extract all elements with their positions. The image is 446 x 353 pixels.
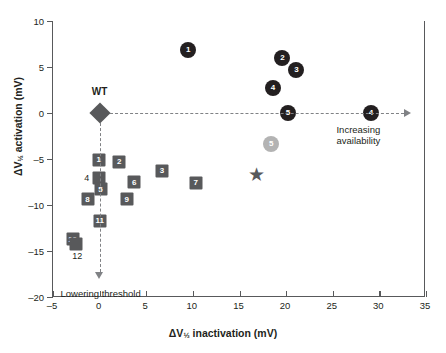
increasing-availability-line2: availability [336, 136, 380, 147]
x-tick [240, 291, 241, 297]
x-tick [426, 291, 427, 297]
marker-square-8: 8 [81, 193, 94, 206]
marker-square-9: 9 [120, 193, 133, 206]
x-tick-label: 5 [143, 300, 148, 311]
x-axis-title: ΔV½ inactivation (mV) [0, 327, 446, 340]
x-tick-label: –5 [47, 300, 58, 311]
y-tick [47, 21, 53, 22]
y-tick-label: 10 [14, 16, 44, 27]
x-tick-label: 15 [233, 300, 244, 311]
x-tick-label: 35 [420, 300, 431, 311]
x-tick [286, 291, 287, 297]
y-tick-label: 5 [14, 62, 44, 73]
marker-square-3: 3 [156, 164, 169, 177]
marker-circle-4: 4 [265, 80, 281, 96]
x-tick [53, 291, 54, 297]
lowering-threshold-arrow-line [100, 123, 101, 272]
x-tick-label: 30 [373, 300, 384, 311]
marker-square-12 [70, 237, 83, 250]
increasing-availability-label: Increasingavailability [336, 125, 380, 147]
marker-circle-1: 1 [180, 42, 196, 58]
y-tick [47, 251, 53, 252]
marker-square-2: 2 [113, 155, 126, 168]
x-tick [193, 291, 194, 297]
x-tick-label: 0 [96, 300, 101, 311]
y-tick-label: –20 [14, 292, 44, 303]
y-tick-label: 0 [14, 108, 44, 119]
marker-circle-2: 2 [274, 50, 290, 66]
x-axis-title-suffix: inactivation (mV) [193, 327, 278, 339]
increasing-availability-arrowhead [404, 109, 411, 117]
x-tick-label: 10 [187, 300, 198, 311]
y-tick [47, 113, 53, 114]
marker-circle-3: 3 [288, 62, 304, 78]
increasing-availability-arrow-line [110, 113, 404, 114]
x-axis-title-subscript: ½ [183, 331, 189, 340]
wt-label: WT [92, 86, 108, 97]
x-tick [146, 291, 147, 297]
x-tick [379, 291, 380, 297]
y-tick [47, 159, 53, 160]
lowering-threshold-arrowhead [95, 272, 103, 279]
x-tick-label: 25 [326, 300, 337, 311]
marker-circle-5: 5 [263, 136, 279, 152]
y-tick [47, 67, 53, 68]
marker-wt-diamond [89, 102, 110, 123]
plot-area: 1234545123456789111012WT★ Increasingavai… [52, 21, 425, 297]
y-tick [47, 297, 53, 298]
x-tick-label: 20 [280, 300, 291, 311]
x-axis-title-prefix: ΔV [169, 327, 184, 339]
y-tick-label: –5 [14, 154, 44, 165]
y-tick-label: –15 [14, 246, 44, 257]
marker-label-12: 12 [72, 251, 82, 261]
y-tick-label: –10 [14, 200, 44, 211]
x-tick [333, 291, 334, 297]
y-tick [47, 205, 53, 206]
marker-square-7: 7 [189, 176, 202, 189]
lowering-threshold-label: Lowering threshold [60, 289, 140, 300]
marker-star: ★ [248, 164, 265, 183]
marker-square-6: 6 [128, 176, 141, 189]
figure-scatter-plot: ΔV½ inactivation (mV) ΔV½ activation (mV… [0, 0, 446, 353]
marker-label-4: 4 [84, 173, 89, 183]
